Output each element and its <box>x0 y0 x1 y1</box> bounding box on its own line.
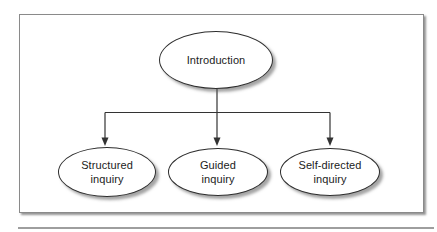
node-label: Structured inquiry <box>73 158 141 186</box>
node-self-directed-inquiry: Self-directed inquiry <box>280 148 380 196</box>
node-introduction: Introduction <box>159 31 273 89</box>
node-structured-inquiry: Structured inquiry <box>58 147 156 197</box>
node-label: Introduction <box>171 53 261 67</box>
figure-canvas: Introduction Structured inquiry Guided i… <box>0 0 437 232</box>
node-label: Guided inquiry <box>184 158 252 186</box>
node-guided-inquiry: Guided inquiry <box>168 148 268 196</box>
node-label: Self-directed inquiry <box>296 158 364 186</box>
bottom-separator-rule <box>18 227 434 229</box>
